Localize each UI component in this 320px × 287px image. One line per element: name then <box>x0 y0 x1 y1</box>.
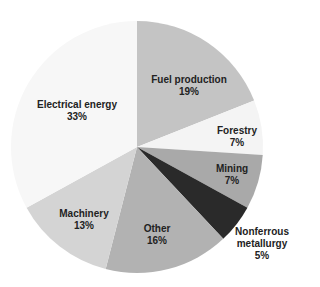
label-electrical-energy: Electrical energy 33% <box>37 99 117 123</box>
label-pct: 7% <box>216 175 248 187</box>
label-forestry: Forestry 7% <box>217 125 257 149</box>
label-name: Mining <box>216 163 248 175</box>
label-pct: 16% <box>144 235 171 247</box>
label-name-line2: metallurgy <box>235 238 289 250</box>
label-name: Electrical energy <box>37 99 117 111</box>
label-name: Forestry <box>217 125 257 137</box>
label-pct: 5% <box>235 250 289 262</box>
label-pct: 33% <box>37 111 117 123</box>
label-pct: 19% <box>151 86 227 98</box>
label-name: Machinery <box>59 208 108 220</box>
label-machinery: Machinery 13% <box>59 208 108 232</box>
label-name: Other <box>144 223 171 235</box>
label-pct: 13% <box>59 220 108 232</box>
label-mining: Mining 7% <box>216 163 248 187</box>
label-nonferrous-metallurgy: Nonferrous metallurgy 5% <box>235 226 289 262</box>
label-other: Other 16% <box>144 223 171 247</box>
label-name: Fuel production <box>151 74 227 86</box>
label-pct: 7% <box>217 137 257 149</box>
label-name-line1: Nonferrous <box>235 226 289 238</box>
label-fuel-production: Fuel production 19% <box>151 74 227 98</box>
